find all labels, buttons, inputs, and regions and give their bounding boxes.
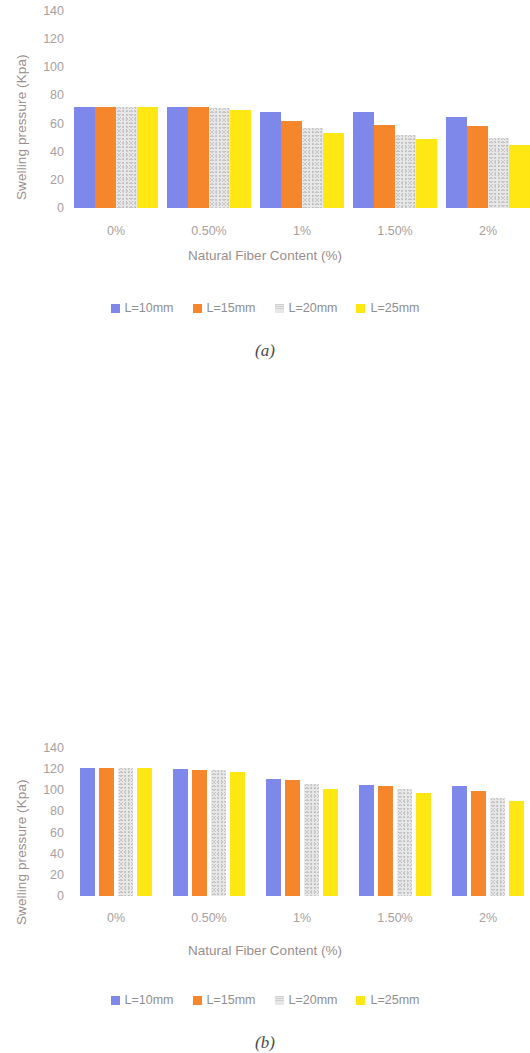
legend-label: L=10mm	[125, 301, 174, 315]
y-tick-label: 60	[24, 118, 64, 131]
bar	[395, 135, 416, 208]
legend-item[interactable]: L=15mm	[193, 301, 256, 315]
figure-panel-a: Swelling pressure (Kpa) 0204060801001201…	[0, 0, 530, 355]
bar	[173, 769, 188, 896]
legend-item[interactable]: L=15mm	[193, 993, 256, 1007]
bar	[230, 110, 251, 209]
bar	[95, 107, 116, 208]
bar	[118, 768, 133, 896]
bar	[353, 112, 374, 208]
bar	[230, 772, 245, 896]
y-tick-label: 0	[24, 890, 64, 903]
legend-item[interactable]: L=10mm	[111, 993, 174, 1007]
y-tick-label: 120	[24, 763, 64, 776]
y-tick-label: 100	[24, 784, 64, 797]
plot-area-a	[70, 11, 530, 208]
legend-label: L=10mm	[125, 993, 174, 1007]
bar	[467, 126, 488, 208]
x-tick-label: 0.50%	[164, 224, 254, 238]
bar-group	[446, 11, 530, 208]
bar	[266, 779, 281, 896]
legend-item[interactable]: L=20mm	[275, 993, 338, 1007]
legend-label: L=20mm	[289, 993, 338, 1007]
bar	[209, 108, 230, 208]
bar-group	[266, 748, 338, 896]
legend-swatch-orange-icon	[193, 304, 202, 313]
legend-swatch-yellow-icon	[356, 304, 365, 313]
bar	[137, 107, 158, 208]
bar	[260, 112, 281, 208]
bar	[452, 786, 467, 896]
y-tick-label: 0	[24, 202, 64, 215]
bar	[509, 145, 530, 208]
bar-group	[74, 11, 158, 208]
x-axis-label-b: Natural Fiber Content (%)	[0, 943, 530, 958]
x-tick-label: 2%	[443, 911, 530, 925]
x-tick-label: 1%	[257, 911, 347, 925]
y-tick-label: 40	[24, 848, 64, 861]
bar-group	[452, 748, 524, 896]
y-tick-label: 120	[24, 33, 64, 46]
x-tick-label: 2%	[443, 224, 530, 238]
legend-item[interactable]: L=25mm	[356, 993, 419, 1007]
legend-swatch-blue-icon	[111, 996, 120, 1005]
bar	[74, 107, 95, 208]
bar	[359, 785, 374, 896]
bar-group	[260, 11, 344, 208]
y-tick-label: 40	[24, 146, 64, 159]
x-tick-label: 1%	[257, 224, 347, 238]
x-axis-label-a: Natural Fiber Content (%)	[0, 248, 530, 263]
legend-label: L=20mm	[289, 301, 338, 315]
bar	[211, 770, 226, 896]
bar	[167, 107, 188, 208]
bar	[285, 780, 300, 896]
figure-panel-b: Swelling pressure (Kpa) 0204060801001201…	[0, 355, 530, 706]
bar-group	[80, 748, 152, 896]
bar	[323, 133, 344, 208]
panel-caption-b: (b)	[0, 1033, 530, 1053]
x-tick-label: 1.50%	[350, 911, 440, 925]
legend-item[interactable]: L=20mm	[275, 301, 338, 315]
legend-label: L=15mm	[207, 301, 256, 315]
x-tick-label: 0%	[71, 224, 161, 238]
legend-item[interactable]: L=10mm	[111, 301, 174, 315]
bar	[116, 107, 137, 208]
bar	[416, 139, 437, 208]
legend-swatch-yellow-icon	[356, 996, 365, 1005]
bar	[323, 789, 338, 896]
y-tick-label: 80	[24, 805, 64, 818]
bar-group	[359, 748, 431, 896]
legend-a: L=10mmL=15mmL=20mmL=25mm	[0, 301, 530, 315]
bar	[302, 128, 323, 208]
bar	[416, 793, 431, 896]
bar	[304, 784, 319, 896]
y-tick-label: 100	[24, 61, 64, 74]
bar-group	[173, 748, 245, 896]
x-tick-label: 0.50%	[164, 911, 254, 925]
bar	[488, 138, 509, 208]
bar	[192, 770, 207, 896]
legend-label: L=25mm	[370, 301, 419, 315]
y-tick-label: 20	[24, 869, 64, 882]
bar	[281, 121, 302, 208]
bar	[471, 791, 486, 896]
y-tick-label: 140	[24, 5, 64, 18]
y-tick-label: 20	[24, 174, 64, 187]
y-tick-label: 60	[24, 827, 64, 840]
legend-label: L=15mm	[207, 993, 256, 1007]
bar	[509, 801, 524, 896]
legend-b: L=10mmL=15mmL=20mmL=25mm	[0, 993, 530, 1007]
legend-item[interactable]: L=25mm	[356, 301, 419, 315]
legend-swatch-orange-icon	[193, 996, 202, 1005]
legend-swatch-gray-icon	[275, 304, 284, 313]
bar	[137, 768, 152, 896]
bar	[378, 786, 393, 896]
bar	[188, 107, 209, 208]
bar	[490, 798, 505, 896]
x-tick-label: 0%	[71, 911, 161, 925]
legend-swatch-blue-icon	[111, 304, 120, 313]
legend-label: L=25mm	[370, 993, 419, 1007]
bar-group	[167, 11, 251, 208]
x-tick-label: 1.50%	[350, 224, 440, 238]
bar	[446, 117, 467, 208]
